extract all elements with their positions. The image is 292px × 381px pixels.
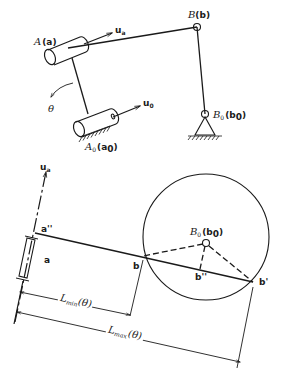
point-b2-label: b'' <box>195 272 207 282</box>
ground-B0-label: B0(b0) <box>212 109 246 122</box>
bottom-construction: ua a a'' B0(b0) b b'' b' <box>14 162 269 368</box>
axis-u0-arrow <box>113 106 140 117</box>
center-B0-label: B0(b0) <box>189 226 223 239</box>
axis-u0-label: u0 <box>143 98 154 109</box>
top-mechanism: ua A(a) θ u0 <box>33 9 246 154</box>
point-a2-label: a'' <box>41 224 53 234</box>
line-a2-to-b1 <box>35 233 253 282</box>
coupler-link-AB <box>68 27 197 48</box>
axis-ua-bottom-label: ua <box>40 162 50 173</box>
center-B0 <box>203 240 210 247</box>
rocker-link-B-B0 <box>197 27 205 114</box>
point-b1-label: b' <box>259 277 268 287</box>
axis-ua-label: ua <box>115 25 125 36</box>
ground-A0-label: A0(a0) <box>84 141 118 154</box>
point-a-label: a <box>44 255 50 265</box>
theta-label: θ <box>48 103 54 114</box>
theta-rotation-arrow <box>51 83 73 97</box>
joint-A-label: A(a) <box>33 36 57 47</box>
axis-ua-arrow <box>84 33 112 44</box>
point-b-label: b <box>133 261 140 271</box>
slider-block-a <box>16 236 38 281</box>
cylinder-ground-A0 <box>71 109 118 142</box>
joint-B-label: B(b) <box>187 9 210 20</box>
extension-line-b1 <box>237 287 253 368</box>
axis-ua-lower <box>14 281 23 324</box>
spatial-linkage-diagram: ua A(a) θ u0 <box>0 0 292 381</box>
crank-link-A-A0 <box>72 58 88 114</box>
